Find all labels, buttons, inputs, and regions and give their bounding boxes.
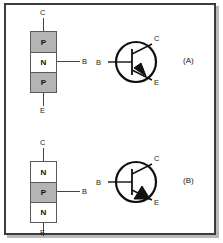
npn-symbol-collector-label: C (154, 154, 159, 163)
pnp-symbol-collector-label: C (154, 34, 159, 43)
pnp-symbol-base-label: B (96, 58, 101, 67)
pnp-block-emitter-label: E (40, 106, 45, 115)
pnp-base-lead (57, 61, 80, 62)
npn-symbol-emitter-label: E (154, 198, 159, 207)
npn-base-lead (57, 191, 80, 192)
pnp-layer-stack: P N P (30, 31, 57, 93)
npn-collector-lead (43, 148, 44, 161)
npn-block-collector-label: C (40, 138, 45, 147)
pnp-layer-emitter: P (31, 73, 56, 92)
transistor-figure: C P N P B E (0, 0, 223, 243)
pnp-emitter-lead (43, 93, 44, 106)
pnp-symbol-collector-lead (132, 44, 152, 54)
pnp-collector-lead (43, 18, 44, 31)
npn-layer-base: P (31, 183, 56, 203)
npn-layer-emitter: N (31, 203, 56, 222)
npn-block-emitter-label: E (40, 228, 45, 237)
pnp-layer-collector: P (31, 32, 56, 53)
npn-layer-stack: N P N (30, 161, 57, 223)
pnp-layer-base: N (31, 53, 56, 73)
symbol-pnp: C B E (104, 32, 182, 94)
npn-layer-collector: N (31, 162, 56, 183)
npn-block-base-label: B (82, 187, 87, 196)
pnp-symbol-emitter-label: E (154, 78, 159, 87)
panel-label-b: (B) (183, 176, 194, 185)
pnp-block-base-label: B (82, 57, 87, 66)
pnp-block-collector-label: C (40, 8, 45, 17)
symbol-npn: C B E (104, 152, 182, 214)
npn-symbol-collector-lead (132, 164, 152, 174)
npn-symbol-base-label: B (96, 178, 101, 187)
figure-stage: C P N P B E (0, 0, 223, 243)
panel-label-a: (A) (183, 56, 194, 65)
